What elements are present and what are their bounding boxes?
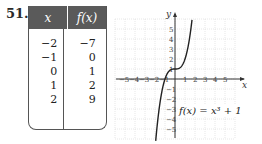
x-tick-label: 2 [193, 76, 197, 84]
y-tick-label: −3 [166, 106, 176, 114]
x-tick-label: −2 [149, 76, 159, 84]
y-tick-label: 2 [169, 56, 173, 64]
y-axis-label: y [165, 9, 172, 19]
x-tick-label: 5 [223, 76, 227, 84]
function-graph: x y −5−4−3−2−112345−5−4−3−2−112345 f(x) … [0, 0, 262, 144]
function-label: f(x) = x³ + 1 [178, 105, 242, 116]
y-tick-label: 3 [169, 46, 173, 54]
x-tick-label: −3 [139, 76, 149, 84]
y-tick-label: −2 [166, 96, 176, 104]
y-tick-label: 5 [169, 26, 173, 34]
x-tick-label: 3 [203, 76, 207, 84]
y-tick-label: −5 [166, 126, 176, 134]
tick-labels: −5−4−3−2−112345−5−4−3−2−112345 [119, 26, 227, 134]
y-axis-arrow-icon [173, 12, 177, 17]
x-tick-label: 1 [183, 76, 187, 84]
x-tick-label: −5 [119, 76, 129, 84]
x-tick-label: 4 [213, 76, 218, 84]
y-tick-label: −1 [166, 86, 176, 94]
y-tick-label: 4 [169, 36, 174, 44]
y-tick-label: −4 [166, 116, 177, 124]
x-axis-label: x [242, 80, 247, 90]
